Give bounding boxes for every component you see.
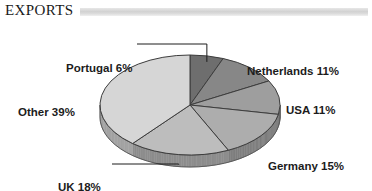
slice-label-germany: Germany 15%: [268, 160, 344, 173]
figure-header: EXPORTS: [0, 0, 372, 24]
slice-label-netherlands: Netherlands 11%: [247, 65, 339, 78]
page-title: EXPORTS: [5, 2, 74, 19]
slice-label-usa: USA 11%: [286, 104, 335, 117]
slice-label-portugal: Portugal 6%: [66, 62, 132, 75]
exports-pie-chart-figure: EXPORTS Portugal 6% Netherlands 11% USA …: [0, 0, 372, 191]
pie-chart-canvas: Portugal 6% Netherlands 11% USA 11% Germ…: [0, 24, 372, 191]
slice-label-other: Other 39%: [18, 106, 75, 119]
slice-label-uk: UK 18%: [58, 181, 101, 191]
header-decorative-rule: [80, 8, 368, 16]
